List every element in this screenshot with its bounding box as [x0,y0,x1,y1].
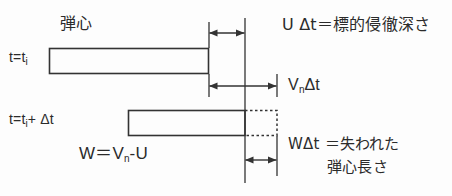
penetrator-bar-upper [50,49,209,74]
label-vn-delta-t-suffix: Δt [304,76,320,93]
penetrator-bar-lower [129,111,246,136]
eroded-segment-outline [245,111,277,136]
label-vn-delta-t: VnΔt [288,77,320,96]
label-u-delta-t-penetration-depth: U Δt＝標的侵徹深さ [282,17,430,34]
label-penetrator-core: 弾心 [60,16,92,33]
label-lost-core-length: 弾心長さ [327,160,388,176]
label-time-initial-subscript: i [26,56,28,67]
label-w-equation-prefix: W＝V [79,144,124,163]
label-time-initial: t=ti [9,50,28,68]
label-time-plus-delta-suffix: + Δt [28,111,54,127]
label-w-equation: W＝Vn-U [79,145,148,165]
label-w-delta-t-lost-length: WΔt ＝失われた [288,137,400,153]
label-time-plus-delta-prefix: t=t [9,111,26,127]
label-w-equation-suffix: -U [130,144,148,163]
label-time-initial-text: t=t [9,49,26,65]
label-time-plus-delta: t=ti+ Δt [9,112,54,130]
label-vn-delta-t-prefix: V [288,76,299,93]
penetration-diagram: 弾心 t=ti t=ti+ Δt U Δt＝標的侵徹深さ VnΔt W＝Vn-U… [0,0,452,196]
